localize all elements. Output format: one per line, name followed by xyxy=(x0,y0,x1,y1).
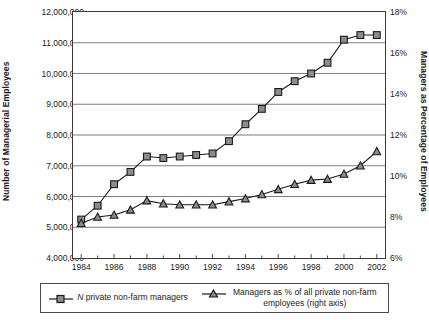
data-point xyxy=(160,155,167,162)
data-point xyxy=(340,170,348,177)
right-axis-title: Managers as Percentage of Employees xyxy=(419,0,429,262)
legend-label-1-text: private non-farm managers xyxy=(83,292,187,302)
plot-area xyxy=(72,11,386,259)
data-point xyxy=(127,169,134,176)
data-point xyxy=(373,32,380,39)
data-point xyxy=(127,206,135,213)
data-point xyxy=(176,153,183,160)
data-point xyxy=(308,70,315,77)
x-tick: 1984 xyxy=(72,262,91,272)
data-point xyxy=(357,32,364,39)
data-point xyxy=(242,121,249,128)
legend-label-2: Managers as % of all private non-farm em… xyxy=(230,287,380,309)
data-point xyxy=(341,36,348,43)
data-point xyxy=(209,150,216,157)
legend-item-managers-count: N private non-farm managers xyxy=(49,292,188,304)
right-tick: 10% xyxy=(390,171,407,181)
data-point xyxy=(143,153,150,160)
data-point xyxy=(226,138,233,145)
x-tick: 1996 xyxy=(269,262,288,272)
x-tick: 2000 xyxy=(334,262,353,272)
data-point xyxy=(324,59,331,66)
chart-legend: N private non-farm managers Managers as … xyxy=(40,283,389,313)
series-managers-percent xyxy=(77,148,380,227)
data-point xyxy=(94,202,101,209)
right-tick: 18% xyxy=(390,7,407,17)
legend-item-managers-percent: Managers as % of all private non-farm em… xyxy=(202,287,380,309)
x-tick: 1998 xyxy=(302,262,321,272)
data-point xyxy=(258,105,265,112)
right-tick: 6% xyxy=(390,253,402,263)
data-point xyxy=(143,197,151,204)
x-tick: 1990 xyxy=(170,262,189,272)
x-tick: 1992 xyxy=(203,262,222,272)
x-tick: 1994 xyxy=(236,262,255,272)
right-tick: 8% xyxy=(390,212,402,222)
legend-label-1: N private non-farm managers xyxy=(77,292,188,303)
data-point xyxy=(291,78,298,85)
x-tick: 1988 xyxy=(137,262,156,272)
right-tick: 12% xyxy=(390,130,407,140)
right-tick: 16% xyxy=(390,48,407,58)
chart-figure: Number of Managerial Employees Managers … xyxy=(0,0,429,320)
series-managers-count xyxy=(78,32,380,223)
data-point xyxy=(193,152,200,159)
square-marker-icon xyxy=(49,294,73,304)
x-tick: 2002 xyxy=(367,262,386,272)
data-point xyxy=(111,181,118,188)
data-point xyxy=(275,89,282,96)
triangle-marker-icon xyxy=(202,289,226,299)
left-axis-title: Number of Managerial Employees xyxy=(1,0,11,262)
right-tick: 14% xyxy=(390,89,407,99)
data-point xyxy=(373,148,381,155)
x-tick: 1986 xyxy=(105,262,124,272)
